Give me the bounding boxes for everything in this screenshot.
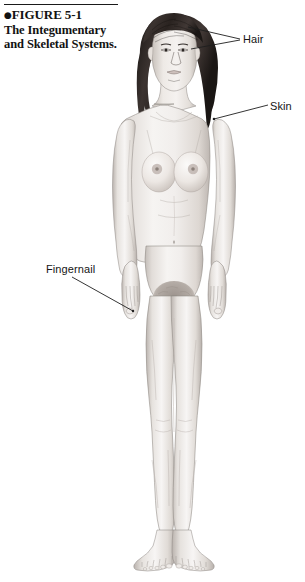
nipple-right: [191, 167, 195, 171]
caption-title-line-2: and Skeletal Systems.: [4, 37, 126, 52]
bullet-icon: ●: [4, 10, 12, 20]
caption-figure-number: ●FIGURE 5-1: [4, 8, 126, 23]
figure-caption: ●FIGURE 5-1 The Integumentary and Skelet…: [4, 4, 126, 52]
caption-rule: [4, 4, 118, 5]
caption-figure-number-text: FIGURE 5-1: [12, 7, 82, 22]
fingernail-right: [214, 308, 222, 314]
nipple-left: [155, 167, 159, 171]
figure-page: ●FIGURE 5-1 The Integumentary and Skelet…: [0, 0, 305, 582]
fingernail-left: [126, 308, 134, 314]
leg-right: [171, 296, 202, 535]
pupil-right: [182, 49, 185, 52]
arm-right: [211, 119, 236, 277]
human-body-anterior-illustration: [0, 0, 305, 582]
caption-title-line-1: The Integumentary: [4, 23, 126, 38]
pupil-left: [165, 49, 168, 52]
label-skin: Skin: [270, 100, 292, 112]
label-fingernail: Fingernail: [46, 263, 95, 275]
label-hair: Hair: [243, 33, 264, 45]
